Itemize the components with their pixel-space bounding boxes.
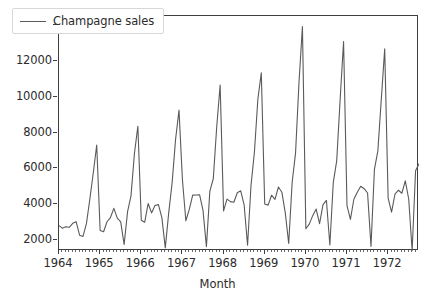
x-axis-minor-tick-mark <box>360 250 361 252</box>
x-axis-minor-tick-mark <box>250 250 251 252</box>
x-axis-tick-label: 1967 <box>167 256 196 270</box>
chart-figure: 2000400060008000100001200014000 Champagn… <box>0 0 435 304</box>
x-axis-minor-tick-mark <box>363 250 364 252</box>
x-axis-minor-tick-mark <box>205 250 206 252</box>
x-axis-minor-tick-mark <box>113 250 114 252</box>
x-axis-minor-tick-mark <box>277 250 278 252</box>
x-axis-minor-tick-mark <box>336 250 337 252</box>
x-axis-minor-tick-mark <box>120 250 121 252</box>
x-axis-minor-tick-mark <box>322 250 323 252</box>
x-axis-tick-mark <box>140 250 141 254</box>
x-axis-minor-tick-mark <box>82 250 83 252</box>
x-axis-minor-tick-mark <box>401 250 402 252</box>
x-axis-tick-label: 1964 <box>44 256 73 270</box>
x-axis-minor-tick-mark <box>408 250 409 252</box>
x-axis-label: Month <box>0 277 435 291</box>
x-axis-minor-tick-mark <box>367 250 368 252</box>
x-axis-minor-tick-mark <box>192 250 193 252</box>
x-axis-minor-tick-mark <box>185 250 186 252</box>
x-axis-tick-mark <box>264 250 265 254</box>
x-axis-minor-tick-mark <box>161 250 162 252</box>
x-axis-minor-tick-mark <box>151 250 152 252</box>
x-axis-minor-tick-mark <box>65 250 66 252</box>
x-axis-minor-tick-mark <box>130 250 131 252</box>
y-axis-tick-mark <box>53 96 57 97</box>
x-axis-minor-tick-mark <box>85 250 86 252</box>
x-axis-minor-tick-mark <box>377 250 378 252</box>
x-axis-minor-tick-mark <box>415 250 416 252</box>
x-axis-minor-tick-mark <box>356 250 357 252</box>
x-axis-minor-tick-mark <box>154 250 155 252</box>
y-axis-tick-label: 6000 <box>23 160 52 174</box>
legend-entry-label: Champagne sales <box>53 14 154 28</box>
legend-line-swatch-icon <box>20 21 46 22</box>
series-line-chart <box>59 16 419 251</box>
x-axis-tick-label: 1970 <box>290 256 319 270</box>
x-axis-minor-tick-mark <box>370 250 371 252</box>
x-axis-tick-mark <box>58 250 59 254</box>
x-axis-tick-mark <box>346 250 347 254</box>
plot-area <box>58 15 418 250</box>
x-axis-minor-tick-mark <box>106 250 107 252</box>
x-axis-tick-label: 1971 <box>332 256 361 270</box>
x-axis-minor-tick-mark <box>226 250 227 252</box>
x-axis-minor-tick-mark <box>332 250 333 252</box>
x-axis-minor-tick-mark <box>325 250 326 252</box>
x-axis-minor-tick-mark <box>236 250 237 252</box>
x-axis-minor-tick-mark <box>202 250 203 252</box>
x-axis-minor-tick-mark <box>103 250 104 252</box>
x-axis-minor-tick-mark <box>301 250 302 252</box>
x-axis-minor-tick-mark <box>212 250 213 252</box>
x-axis-minor-tick-mark <box>260 250 261 252</box>
x-axis-minor-tick-mark <box>164 250 165 252</box>
x-axis-tick-mark <box>99 250 100 254</box>
x-axis-minor-tick-mark <box>373 250 374 252</box>
x-axis-minor-tick-mark <box>96 250 97 252</box>
x-axis-minor-tick-mark <box>284 250 285 252</box>
x-axis-minor-tick-mark <box>329 250 330 252</box>
x-axis-tick-label: 1965 <box>85 256 114 270</box>
x-axis-minor-tick-mark <box>380 250 381 252</box>
x-axis-minor-tick-mark <box>75 250 76 252</box>
y-axis-tick-label: 2000 <box>23 232 52 246</box>
x-axis-minor-tick-mark <box>411 250 412 252</box>
x-axis-minor-tick-mark <box>61 250 62 252</box>
x-axis-minor-tick-mark <box>281 250 282 252</box>
x-axis-minor-tick-mark <box>147 250 148 252</box>
x-axis-minor-tick-mark <box>229 250 230 252</box>
x-axis-tick-mark <box>305 250 306 254</box>
x-axis-minor-tick-mark <box>394 250 395 252</box>
x-axis-tick-mark <box>387 250 388 254</box>
x-axis-minor-tick-mark <box>267 250 268 252</box>
x-axis-minor-tick-mark <box>391 250 392 252</box>
x-axis-minor-tick-mark <box>308 250 309 252</box>
x-axis-minor-tick-mark <box>247 250 248 252</box>
x-axis-minor-tick-mark <box>137 250 138 252</box>
y-axis-tick-mark <box>53 167 57 168</box>
x-axis-minor-tick-mark <box>274 250 275 252</box>
x-axis-minor-tick-mark <box>79 250 80 252</box>
x-axis-minor-tick-mark <box>175 250 176 252</box>
y-axis-tick-mark <box>53 239 57 240</box>
x-axis-tick-label: 1966 <box>126 256 155 270</box>
y-axis-tick-mark <box>53 132 57 133</box>
x-axis-minor-tick-mark <box>315 250 316 252</box>
x-axis-minor-tick-mark <box>133 250 134 252</box>
y-axis-tick-mark <box>53 60 57 61</box>
chart-legend: Champagne sales <box>12 8 164 34</box>
y-axis-tick-label: 4000 <box>23 196 52 210</box>
x-axis-minor-tick-mark <box>257 250 258 252</box>
series-line-champagne-sales <box>59 26 419 250</box>
x-axis-minor-tick-mark <box>397 250 398 252</box>
x-axis-minor-tick-mark <box>291 250 292 252</box>
x-axis-tick-label: 1972 <box>373 256 402 270</box>
x-axis-minor-tick-mark <box>199 250 200 252</box>
x-axis-minor-tick-mark <box>123 250 124 252</box>
x-axis-minor-tick-mark <box>127 250 128 252</box>
x-axis-minor-tick-mark <box>168 250 169 252</box>
x-axis-minor-tick-mark <box>404 250 405 252</box>
x-axis-minor-tick-mark <box>343 250 344 252</box>
x-axis-minor-tick-mark <box>271 250 272 252</box>
x-axis-tick-label: 1969 <box>249 256 278 270</box>
x-axis-minor-tick-mark <box>319 250 320 252</box>
